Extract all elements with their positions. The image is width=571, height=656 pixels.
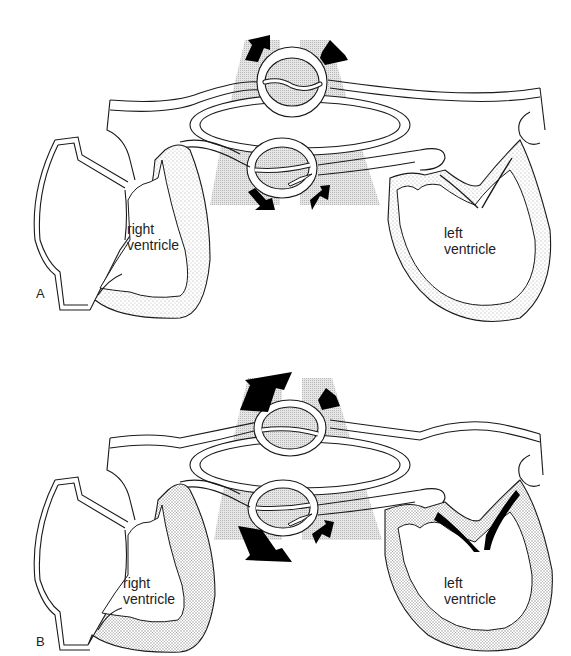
label-right-ventricle: right ventricle (123, 575, 175, 607)
label-left-ventricle: left ventricle (444, 575, 496, 607)
panel-letter-a: A (36, 286, 45, 301)
label-left-ventricle: left ventricle (444, 225, 496, 257)
label-right-ventricle: right ventricle (127, 221, 179, 253)
lower-capillary-ring (248, 480, 318, 536)
heart-lung-diagram-a (0, 0, 571, 330)
label-line: ventricle (444, 241, 496, 257)
label-line: ventricle (127, 237, 179, 253)
label-line: left (444, 575, 496, 591)
panel-letter-b: B (36, 634, 45, 649)
panel-b: right ventricle left ventricle B (0, 330, 571, 656)
upper-capillary-ring (257, 47, 327, 117)
panel-a: right ventricle left ventricle A (0, 0, 571, 330)
label-line: left (444, 225, 496, 241)
label-line: ventricle (444, 591, 496, 607)
label-line: right (123, 575, 175, 591)
label-line: ventricle (123, 591, 175, 607)
heart-lung-diagram-b (0, 330, 571, 656)
left-ventricle (385, 480, 552, 651)
label-line: right (127, 221, 179, 237)
lower-capillary-ring (247, 138, 317, 198)
